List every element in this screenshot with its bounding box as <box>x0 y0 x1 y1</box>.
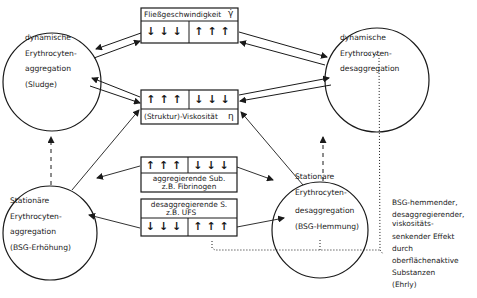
node-line: aggregation <box>25 61 77 77</box>
desaggregating-decrease-arrows: ↓↓↓ <box>143 220 188 233</box>
note-line: senkender Effekt <box>392 231 464 242</box>
node-line: Erythrocyten- <box>10 209 71 225</box>
aggregating-increase-arrows: ↑↑↑ <box>143 159 188 172</box>
node-line: dynamische <box>25 30 77 46</box>
arrow-aggregating-to-stationary-desaggregation <box>237 167 273 180</box>
arrow-aggregating-to-stationary-aggregation <box>97 166 140 178</box>
viscosity-increase-arrows: ↑↑↑ <box>143 93 189 106</box>
flow-speed-decrease-arrows: ↓↓↓ <box>143 25 189 38</box>
note-line: BSG-hemmender, <box>392 197 464 208</box>
note-line: (Ehrly) <box>392 279 464 290</box>
node-dynamic-aggregation: dynamische Erythrocyten- aggregation (Sl… <box>25 30 77 92</box>
flow-speed-label: Fließgeschwindigkeit <box>144 10 221 19</box>
node-line: dynamische <box>340 30 399 46</box>
node-line: Stationäre <box>10 193 71 209</box>
note-line: oberflächenaktive <box>392 255 464 266</box>
desaggregating-label-2: z.B. UFS <box>141 208 221 217</box>
viscosity-symbol: η <box>228 112 234 121</box>
node-line: Erythrocyten- <box>295 185 359 201</box>
aggregating-label-2: z.B. Fibrinogen <box>141 182 237 191</box>
node-line: Stationare <box>295 169 359 185</box>
note-line: viskositäts- <box>392 218 464 229</box>
node-stationary-desaggregation: Stationare Erythrocyten- desaggregation … <box>295 169 359 234</box>
arrow-desaggregating-to-stationary-desaggregation <box>237 218 284 227</box>
node-line: desaggregation <box>295 203 359 219</box>
node-dynamic-desaggregation: dynamische Erythrocyten- desaggregation <box>340 30 399 77</box>
surfactant-effect-note: BSG-hemmender, desaggregierender, viskos… <box>392 197 464 291</box>
double-arrow-flow-desaggregation <box>239 32 327 65</box>
node-line: (BSG-Erhöhung) <box>10 240 71 256</box>
double-arrow-sludge-flow <box>94 33 141 58</box>
node-line: Erythrocyten- <box>25 46 77 62</box>
shear-rate-symbol: γ̇ <box>228 9 233 18</box>
note-line: durch <box>392 243 464 254</box>
arrow-stationary-aggregation-to-viscosity <box>72 110 139 190</box>
node-line: desaggregation <box>340 61 399 77</box>
arrow-stationary-desaggregation-to-viscosity <box>241 112 303 185</box>
flow-speed-increase-arrows: ↑↑↑ <box>190 25 238 38</box>
note-line: Substanzen <box>392 267 464 278</box>
node-line: aggregation <box>10 224 71 240</box>
aggregating-decrease-arrows: ↓↓↓ <box>189 159 237 172</box>
viscosity-decrease-arrows: ↓↓↓ <box>190 93 238 106</box>
node-line: Erythrocyten- <box>340 46 399 62</box>
desaggregating-increase-arrows: ↑↑↑ <box>189 220 237 233</box>
node-stationary-aggregation: Stationäre Erythrocyten- aggregation (BS… <box>10 193 71 255</box>
double-arrow-viscosity-desaggregation <box>239 78 331 101</box>
viscosity-label: (Struktur)-Viskosität <box>144 112 218 121</box>
node-line: (BSG-Hemmung) <box>295 219 359 235</box>
node-line: (Sludge) <box>25 77 77 93</box>
